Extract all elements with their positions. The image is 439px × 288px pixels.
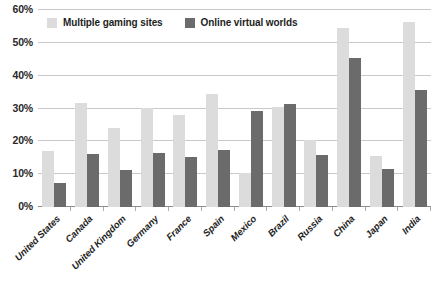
bar [185, 157, 197, 207]
bar-group [267, 10, 300, 207]
bar [153, 153, 165, 207]
x-axis-label-cell: Russia [300, 211, 333, 271]
source-caption [0, 281, 439, 288]
bar [337, 28, 349, 207]
bar [87, 154, 99, 207]
bar-group [333, 10, 366, 207]
y-axis-tick-label: 10% [13, 167, 33, 179]
y-axis-tick-label: 60% [13, 3, 33, 15]
bar [120, 170, 132, 207]
bar [284, 104, 296, 207]
x-axis-label-cell: India [398, 211, 431, 271]
bar-group [300, 10, 333, 207]
bar [349, 58, 361, 207]
bar [239, 173, 251, 207]
bar [173, 115, 185, 207]
bar-group [202, 10, 235, 207]
x-axis-label-cell: Japan [366, 211, 399, 271]
y-axis-tick-label: 50% [13, 36, 33, 48]
x-axis-category-label: Japan [363, 213, 390, 240]
bar [316, 155, 328, 207]
x-axis-category-label: Spain [200, 213, 226, 239]
bar [218, 150, 230, 207]
x-axis-label-cell: France [169, 211, 202, 271]
legend-label: Multiple gaming sites [63, 17, 163, 28]
chart-legend: Multiple gaming sitesOnline virtual worl… [47, 17, 297, 28]
bar-group [38, 10, 71, 207]
bar [272, 107, 284, 207]
bar [54, 183, 66, 207]
legend-label: Online virtual worlds [201, 17, 298, 28]
x-axis-category-label: Russia [295, 213, 324, 242]
bar [403, 22, 415, 208]
bar [206, 94, 218, 207]
x-axis-label-cell: China [333, 211, 366, 271]
bar-group [136, 10, 169, 207]
bar [42, 151, 54, 207]
bar [370, 156, 382, 207]
x-axis-category-label: Brazil [266, 213, 292, 239]
bars-layer [38, 10, 431, 207]
y-axis-tick-label: 20% [13, 134, 33, 146]
bar-group [104, 10, 137, 207]
bar-group [169, 10, 202, 207]
y-axis-tick-label: 30% [13, 102, 33, 114]
y-axis-tick-label: 40% [13, 69, 33, 81]
bar-chart: 0%10%20%30%40%50%60% United StatesCanada… [0, 0, 439, 288]
bar-group [398, 10, 431, 207]
bar-group [71, 10, 104, 207]
legend-swatch-icon [47, 18, 57, 28]
x-axis-label-cell: Spain [202, 211, 235, 271]
x-axis-category-label: India [399, 213, 422, 236]
bar [75, 103, 87, 207]
bar [251, 111, 263, 207]
bar [108, 128, 120, 207]
bar-group [366, 10, 399, 207]
legend-swatch-icon [185, 18, 195, 28]
bar [141, 108, 153, 207]
plot-area: 0%10%20%30%40%50%60% [38, 10, 431, 207]
bar [415, 90, 427, 207]
legend-item: Online virtual worlds [185, 17, 298, 28]
x-axis-label-cell: United States [38, 211, 71, 271]
x-axis-label-cell: Mexico [235, 211, 268, 271]
y-axis-tick-label: 0% [18, 200, 33, 212]
bar-group [235, 10, 268, 207]
x-axis-label-cell: Germany [136, 211, 169, 271]
x-axis-label-cell: Brazil [267, 211, 300, 271]
x-axis-category-label: France [164, 213, 193, 242]
x-axis-category-label: China [331, 213, 357, 239]
bar [304, 140, 316, 207]
bar [382, 169, 394, 207]
legend-item: Multiple gaming sites [47, 17, 163, 28]
x-axis-category-label: United States [12, 213, 62, 263]
x-axis-labels: United StatesCanadaUnited KingdomGermany… [38, 211, 431, 271]
